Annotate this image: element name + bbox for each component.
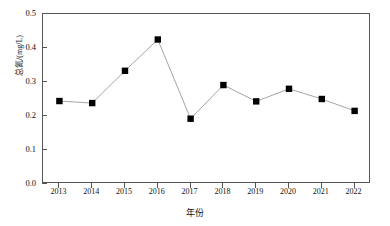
x-axis-tick-mark: [321, 183, 322, 188]
series-line: [59, 40, 354, 119]
chart-container: 总氮/(mg/L) 0.00.10.20.30.40.5 20132014201…: [0, 0, 390, 226]
y-axis-tick-mark: [42, 81, 47, 82]
data-series-total-nitrogen: [43, 14, 371, 184]
data-point-marker: [253, 98, 259, 104]
x-axis-tick-mark: [255, 183, 256, 188]
x-axis-label: 年份: [0, 206, 390, 219]
y-axis-tick-mark: [42, 13, 47, 14]
x-axis-tick-label: 2015: [107, 187, 141, 196]
y-axis-tick-mark: [42, 47, 47, 48]
y-axis-tick-label: 0.2: [10, 111, 36, 119]
data-point-marker: [155, 36, 161, 42]
x-axis-tick-mark: [91, 183, 92, 188]
data-point-marker: [286, 86, 292, 92]
y-axis-tick-label: 0.0: [10, 179, 36, 187]
x-axis-tick-mark: [124, 183, 125, 188]
y-axis-tick-mark: [42, 183, 47, 184]
data-point-marker: [56, 98, 62, 104]
x-axis-tick-label: 2021: [304, 187, 338, 196]
x-axis-tick-mark: [58, 183, 59, 188]
data-point-marker: [122, 68, 128, 74]
data-point-marker: [187, 116, 193, 122]
y-axis-tick-label: 0.4: [10, 43, 36, 51]
data-point-marker: [319, 96, 325, 102]
x-axis-tick-mark: [222, 183, 223, 188]
x-axis-tick-label: 2014: [74, 187, 108, 196]
x-axis-tick-mark: [354, 183, 355, 188]
y-axis-tick-mark: [42, 149, 47, 150]
x-axis-tick-label: 2013: [41, 187, 75, 196]
y-axis-tick-label: 0.1: [10, 145, 36, 153]
x-axis-tick-label: 2022: [337, 187, 371, 196]
x-axis-tick-mark: [288, 183, 289, 188]
y-axis-tick-mark: [42, 115, 47, 116]
data-point-marker: [89, 100, 95, 106]
x-axis-tick-label: 2020: [271, 187, 305, 196]
y-axis-tick-label: 0.5: [10, 9, 36, 17]
x-axis-tick-label: 2017: [173, 187, 207, 196]
data-point-marker: [351, 108, 357, 114]
x-axis-tick-mark: [157, 183, 158, 188]
plot-area: [42, 13, 370, 183]
x-axis-tick-mark: [190, 183, 191, 188]
x-axis-tick-label: 2016: [140, 187, 174, 196]
data-point-marker: [220, 82, 226, 88]
x-axis-tick-label: 2018: [205, 187, 239, 196]
x-axis-tick-label: 2019: [238, 187, 272, 196]
y-axis-tick-label: 0.3: [10, 77, 36, 85]
